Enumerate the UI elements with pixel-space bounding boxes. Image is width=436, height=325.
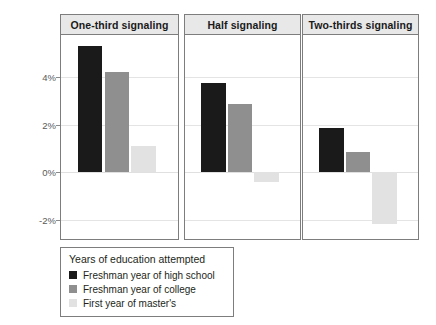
legend-item-freshman-college: Freshman year of college <box>69 282 226 296</box>
gridline <box>61 220 178 221</box>
bar-3 <box>131 146 156 172</box>
y-tick-mark <box>56 220 60 221</box>
legend-item-first-year-masters: First year of master's <box>69 296 226 310</box>
facet-header-two-thirds-signaling: Two-thirds signaling <box>303 15 418 35</box>
facet-panel-one-third-signaling: One-third signaling <box>60 14 179 240</box>
facet-header-label: Half signaling <box>207 19 277 31</box>
chart: Degree return 4%2%0%-2% One-third signal… <box>0 0 436 325</box>
facet-header-half-signaling: Half signaling <box>185 15 300 35</box>
gridline <box>303 220 418 221</box>
legend-swatch-icon <box>69 299 77 307</box>
bar-1 <box>201 83 225 172</box>
plot-area-two-thirds-signaling <box>303 35 418 239</box>
facet-header-one-third-signaling: One-third signaling <box>61 15 178 35</box>
gridline <box>185 172 300 173</box>
y-axis: 4%2%0%-2% <box>24 0 56 325</box>
gridline <box>61 172 178 173</box>
facet-header-label: One-third signaling <box>70 19 168 31</box>
facet-panel-two-thirds-signaling: Two-thirds signaling <box>302 14 419 240</box>
legend-item-freshman-high-school: Freshman year of high school <box>69 268 226 282</box>
legend-item-label: Freshman year of high school <box>83 270 215 281</box>
legend-swatch-icon <box>69 285 77 293</box>
gridline <box>185 220 300 221</box>
y-tick-label: 2% <box>30 119 56 130</box>
legend-swatch-icon <box>69 271 77 279</box>
facet-panel-half-signaling: Half signaling <box>184 14 301 240</box>
legend: Years of education attempted Freshman ye… <box>60 247 234 317</box>
gridline <box>303 77 418 78</box>
bar-1 <box>319 128 343 172</box>
gridline <box>303 125 418 126</box>
plot-area-half-signaling <box>185 35 300 239</box>
y-tick-label: -2% <box>30 214 56 225</box>
bar-3 <box>254 172 278 182</box>
legend-item-label: First year of master's <box>83 298 176 309</box>
y-tick-mark <box>56 172 60 173</box>
bar-2 <box>346 152 370 172</box>
bar-2 <box>228 104 252 172</box>
plot-area-one-third-signaling <box>61 35 178 239</box>
gridline <box>303 172 418 173</box>
legend-title: Years of education attempted <box>69 253 226 265</box>
y-tick-label: 4% <box>30 72 56 83</box>
y-tick-label: 0% <box>30 167 56 178</box>
bar-1 <box>78 46 103 172</box>
y-tick-mark <box>56 77 60 78</box>
bar-3 <box>372 172 396 224</box>
legend-item-label: Freshman year of college <box>83 284 196 295</box>
facet-header-label: Two-thirds signaling <box>309 19 413 31</box>
y-tick-mark <box>56 125 60 126</box>
bar-2 <box>105 72 130 172</box>
gridline <box>185 77 300 78</box>
